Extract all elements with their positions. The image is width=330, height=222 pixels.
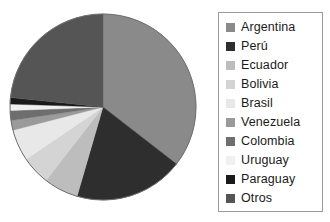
legend-item[interactable]: Paraguay xyxy=(226,170,322,189)
pie-chart-svg xyxy=(8,10,198,204)
legend-color-swatch-icon xyxy=(226,137,235,146)
legend-item[interactable]: Venezuela xyxy=(226,113,322,132)
legend-item-label: Argentina xyxy=(241,18,295,37)
legend-color-swatch-icon xyxy=(226,175,235,184)
legend-item[interactable]: Perú xyxy=(226,37,322,56)
legend-color-swatch-icon xyxy=(226,99,235,108)
legend-item-label: Brasil xyxy=(241,94,273,113)
legend-item-label: Otros xyxy=(241,189,272,208)
pie-chart-figure: ArgentinaPerúEcuadorBoliviaBrasilVenezue… xyxy=(0,0,330,222)
legend-item-label: Bolivia xyxy=(241,75,279,94)
legend-color-swatch-icon xyxy=(226,61,235,70)
legend-item-label: Colombia xyxy=(241,132,295,151)
legend-color-swatch-icon xyxy=(226,118,235,127)
legend-item-label: Ecuador xyxy=(241,56,288,75)
legend-color-swatch-icon xyxy=(226,23,235,32)
legend-item-label: Paraguay xyxy=(241,170,295,189)
legend-item[interactable]: Ecuador xyxy=(226,56,322,75)
legend-item[interactable]: Colombia xyxy=(226,132,322,151)
legend-item-label: Venezuela xyxy=(241,113,300,132)
legend-item[interactable]: Otros xyxy=(226,189,322,208)
pie-slice xyxy=(10,14,103,107)
legend-color-swatch-icon xyxy=(226,156,235,165)
legend-item[interactable]: Brasil xyxy=(226,94,322,113)
legend-color-swatch-icon xyxy=(226,194,235,203)
legend-item-label: Uruguay xyxy=(241,151,289,170)
legend-entry-list: ArgentinaPerúEcuadorBoliviaBrasilVenezue… xyxy=(226,18,322,208)
legend-item[interactable]: Argentina xyxy=(226,18,322,37)
legend-item[interactable]: Bolivia xyxy=(226,75,322,94)
pie-chart-plot-area xyxy=(8,10,198,204)
legend-item[interactable]: Uruguay xyxy=(226,151,322,170)
legend-color-swatch-icon xyxy=(226,42,235,51)
legend-color-swatch-icon xyxy=(226,80,235,89)
chart-legend: ArgentinaPerúEcuadorBoliviaBrasilVenezue… xyxy=(218,12,323,212)
legend-item-label: Perú xyxy=(241,37,268,56)
